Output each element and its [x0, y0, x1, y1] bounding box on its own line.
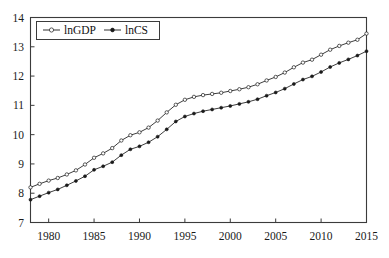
data-point: [56, 176, 59, 179]
data-point: [301, 61, 304, 64]
data-series-group: [29, 32, 368, 201]
data-point: [74, 169, 77, 172]
y-tick-label: 10: [13, 129, 25, 141]
data-point: [265, 79, 268, 82]
y-tick-label: 9: [18, 158, 24, 170]
y-tick-label: 11: [13, 99, 24, 111]
data-point: [347, 41, 350, 44]
data-point: [192, 112, 195, 115]
data-point: [192, 95, 195, 98]
data-point: [111, 161, 114, 164]
data-point: [138, 145, 141, 148]
data-point: [65, 173, 68, 176]
data-point: [283, 87, 286, 90]
x-tick-label: 1980: [37, 230, 60, 242]
data-point: [147, 141, 150, 144]
chart-legend: lnGDPlnCS: [37, 22, 160, 40]
data-point: [29, 186, 32, 189]
x-tick-label: 2010: [310, 230, 333, 242]
data-point: [311, 75, 314, 78]
data-point: [210, 92, 213, 95]
data-point: [365, 32, 368, 35]
data-point: [156, 119, 159, 122]
legend-filled-circle-icon: [111, 28, 115, 32]
data-point: [292, 82, 295, 85]
data-point: [356, 54, 359, 57]
data-point: [101, 152, 104, 155]
data-point: [120, 139, 123, 142]
x-tick-label: 2000: [219, 230, 242, 242]
data-point: [256, 83, 259, 86]
data-point: [338, 61, 341, 64]
series-lncs: [29, 50, 368, 201]
data-point: [356, 38, 359, 41]
legend-label: lnGDP: [64, 24, 96, 36]
data-point: [220, 106, 223, 109]
data-point: [320, 70, 323, 73]
data-point: [56, 188, 59, 191]
y-tick-label: 14: [13, 12, 25, 24]
chart-container: 7891011121314 19801985199019952000200520…: [0, 0, 389, 258]
y-tick-label: 12: [13, 70, 25, 82]
data-point: [129, 134, 132, 137]
data-point: [274, 75, 277, 78]
data-point: [338, 44, 341, 47]
data-point: [74, 179, 77, 182]
data-point: [165, 111, 168, 114]
data-point: [83, 163, 86, 166]
series-line: [31, 51, 367, 199]
data-point: [92, 156, 95, 159]
data-point: [365, 50, 368, 53]
y-tick-label: 7: [18, 217, 24, 229]
data-point: [138, 131, 141, 134]
data-point: [201, 93, 204, 96]
y-axis-tick-labels: 7891011121314: [13, 12, 25, 229]
data-point: [256, 98, 259, 101]
x-tick-label: 1990: [128, 230, 151, 242]
data-point: [165, 128, 168, 131]
data-point: [156, 135, 159, 138]
plot-frame: [31, 18, 367, 223]
data-point: [329, 65, 332, 68]
data-point: [38, 195, 41, 198]
data-point: [129, 148, 132, 151]
data-point: [174, 120, 177, 123]
data-point: [65, 184, 68, 187]
data-point: [111, 146, 114, 149]
data-point: [93, 168, 96, 171]
data-point: [229, 104, 232, 107]
data-point: [47, 179, 50, 182]
data-point: [211, 108, 214, 111]
data-point: [174, 103, 177, 106]
data-point: [328, 48, 331, 51]
legend-open-circle-icon: [49, 28, 53, 32]
data-point: [283, 71, 286, 74]
data-point: [319, 53, 322, 56]
series-lngdp: [29, 32, 368, 189]
data-point: [247, 86, 250, 89]
y-tick-label: 13: [13, 41, 25, 53]
data-point: [229, 89, 232, 92]
data-point: [120, 154, 123, 157]
x-tick-label: 2005: [264, 230, 287, 242]
x-tick-label: 1995: [173, 230, 196, 242]
data-point: [238, 102, 241, 105]
data-point: [183, 115, 186, 118]
y-tick-label: 8: [18, 187, 24, 199]
data-point: [147, 126, 150, 129]
data-point: [238, 88, 241, 91]
data-point: [292, 66, 295, 69]
data-point: [183, 98, 186, 101]
data-point: [347, 58, 350, 61]
data-point: [301, 78, 304, 81]
data-point: [83, 175, 86, 178]
data-point: [274, 91, 277, 94]
x-axis-tick-marks: [49, 219, 367, 223]
data-point: [102, 165, 105, 168]
data-point: [38, 182, 41, 185]
data-point: [247, 100, 250, 103]
data-point: [29, 198, 32, 201]
data-point: [47, 191, 50, 194]
data-point: [310, 58, 313, 61]
x-axis-tick-labels: 19801985199019952000200520102015: [37, 230, 378, 242]
